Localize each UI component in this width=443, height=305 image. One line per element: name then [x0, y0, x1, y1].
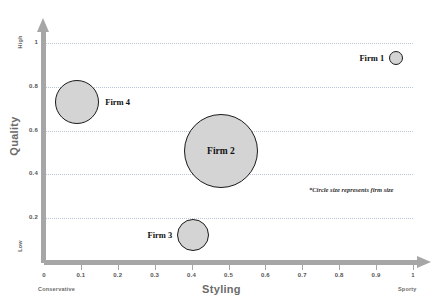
- x-axis-tick-label: 0.5: [216, 272, 242, 278]
- bubble-firm-4[interactable]: [55, 80, 99, 124]
- bubble-label-firm-2: Firm 2: [207, 146, 235, 156]
- x-axis-tick-mark: [118, 265, 119, 270]
- y-axis-low-label: Low: [17, 234, 23, 258]
- x-axis-tick-mark: [339, 265, 340, 270]
- bubble-chart: 0.20.40.60.81 00.10.20.30.40.50.60.70.80…: [0, 0, 443, 305]
- x-axis-tick-mark: [81, 265, 82, 270]
- x-axis-title: Styling: [0, 283, 443, 295]
- x-axis-tick-mark: [302, 265, 303, 270]
- y-axis-tick-label: 0.6: [24, 127, 38, 133]
- chart-annotation: *Circle size represents firm size: [309, 186, 394, 193]
- y-axis-title: Quality: [8, 106, 20, 166]
- x-axis-tick-label: 1: [400, 272, 426, 278]
- y-axis-line: [41, 30, 46, 263]
- x-axis-tick-label: 0.6: [252, 272, 278, 278]
- y-axis-tick-label: 0.4: [24, 170, 38, 176]
- x-axis-line: [44, 260, 419, 265]
- gridline-horizontal: [46, 43, 413, 45]
- y-axis-arrow-icon: [37, 18, 49, 32]
- x-axis-tick-label: 0.9: [363, 272, 389, 278]
- gridline-horizontal: [46, 218, 413, 220]
- x-axis-tick-label: 0.1: [68, 272, 94, 278]
- bubble-firm-3[interactable]: [177, 219, 209, 251]
- x-axis-tick-mark: [265, 265, 266, 270]
- bubble-label-firm-4: Firm 4: [105, 97, 130, 107]
- x-axis-tick-mark: [376, 265, 377, 270]
- bubble-label-firm-1: Firm 1: [359, 53, 384, 63]
- x-axis-arrow-icon: [417, 256, 431, 268]
- x-axis-tick-label: 0.3: [142, 272, 168, 278]
- x-axis-tick-mark: [155, 265, 156, 270]
- x-axis-tick-mark: [413, 265, 414, 270]
- x-axis-tick-label: 0.8: [326, 272, 352, 278]
- x-axis-tick-label: 0.2: [105, 272, 131, 278]
- y-axis-tick-label: 1: [24, 39, 38, 45]
- x-axis-tick-label: 0: [31, 272, 57, 278]
- y-axis-tick-label: 0.2: [24, 214, 38, 220]
- y-axis-tick-label: 0.8: [24, 83, 38, 89]
- x-axis-tick-label: 0.4: [179, 272, 205, 278]
- y-axis-high-label: High: [17, 30, 23, 54]
- gridline-horizontal: [46, 87, 413, 89]
- x-axis-tick-label: 0.7: [289, 272, 315, 278]
- bubble-firm-1[interactable]: [389, 51, 403, 65]
- x-axis-tick-mark: [192, 265, 193, 270]
- x-axis-tick-mark: [229, 265, 230, 270]
- bubble-label-firm-3: Firm 3: [147, 230, 172, 240]
